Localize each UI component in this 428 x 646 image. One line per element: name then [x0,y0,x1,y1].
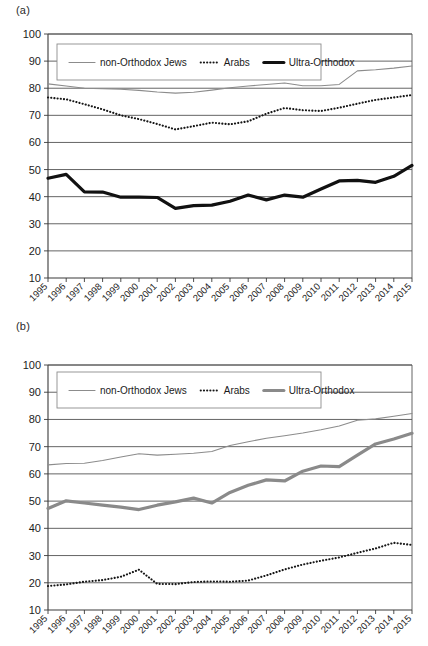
x-axis-tick-label: 2004 [190,613,213,636]
x-axis-tick-label: 2002 [154,613,177,636]
x-axis-tick-label: 1997 [63,281,86,304]
x-axis-tick-label: 1998 [81,613,104,636]
y-axis-tick-label: 40 [29,522,41,534]
x-axis-tick-label: 2008 [263,613,286,636]
chart-panel-b: (b) 102030405060708090100199519961997199… [0,320,428,646]
y-axis-tick-label: 70 [29,109,41,121]
x-axis-tick-label: 1996 [45,613,68,636]
x-axis-tick-label: 1999 [99,613,122,636]
x-axis-tick-label: 2015 [391,281,414,304]
legend-label-arabs: Arabs [224,57,250,68]
y-axis-tick-label: 80 [29,82,41,94]
x-axis-tick-label: 2011 [318,613,340,635]
x-axis-tick-label: 2013 [354,613,377,636]
figure-container: (a) 102030405060708090100199519961997199… [0,0,428,646]
y-axis-tick-label: 40 [29,191,41,203]
panel-b-plot-area: 1020304050607080901001995199619971998199… [0,320,428,646]
y-axis-tick-label: 90 [29,55,41,67]
x-axis-tick-label: 2004 [190,281,213,304]
x-axis-tick-label: 2013 [354,281,377,304]
x-axis-tick-label: 2000 [118,613,141,636]
x-axis-tick-label: 2007 [245,281,268,304]
x-axis-tick-label: 2010 [300,613,323,636]
x-axis-tick-label: 1998 [81,281,104,304]
series-line-ultra-orthodox [48,433,412,509]
x-axis-tick-label: 1996 [45,281,68,304]
x-axis-tick-label: 2007 [245,613,268,636]
x-axis-tick-label: 2012 [336,281,359,304]
x-axis-tick-label: 2000 [118,281,141,304]
chart-panel-a: (a) 102030405060708090100199519961997199… [0,0,428,320]
y-axis-tick-label: 50 [29,164,41,176]
x-axis-tick-label: 2006 [227,613,250,636]
y-axis-tick-label: 80 [29,413,41,425]
y-axis-tick-label: 70 [29,441,41,453]
y-axis-tick-label: 20 [29,245,41,257]
x-axis-tick-label: 2001 [136,613,159,636]
y-axis-tick-label: 90 [29,386,41,398]
x-axis-tick-label: 2009 [281,281,304,304]
x-axis-tick-label: 2001 [136,281,159,304]
series-line-arabs [48,543,412,586]
y-axis-tick-label: 30 [29,550,41,562]
x-axis-tick-label: 2010 [300,281,323,304]
x-axis-tick-label: 2006 [227,281,250,304]
x-axis-tick-label: 1995 [27,281,50,304]
x-axis-tick-label: 1997 [63,613,86,636]
x-axis-tick-label: 2005 [209,281,232,304]
series-line-arabs [48,95,412,129]
series-line-non-orthodox-jews [48,413,412,464]
x-axis-tick-label: 2012 [336,613,359,636]
x-axis-tick-label: 2009 [281,613,304,636]
y-axis-tick-label: 60 [29,136,41,148]
legend-label-arabs: Arabs [224,385,250,396]
y-axis-tick-label: 60 [29,468,41,480]
x-axis-tick-label: 2014 [372,613,395,636]
legend-label-non-orthodox-jews: non-Orthodox Jews [100,57,187,68]
legend-label-ultra-orthodox: Ultra-Orthodox [289,57,355,68]
x-axis-tick-label: 2011 [318,281,340,303]
panel-a-svg: 1020304050607080901001995199619971998199… [0,0,428,320]
series-line-ultra-orthodox [48,165,412,208]
y-axis-tick-label: 30 [29,218,41,230]
legend-label-non-orthodox-jews: non-Orthodox Jews [100,385,187,396]
y-axis-tick-label: 100 [23,28,41,40]
y-axis-tick-label: 50 [29,495,41,507]
panel-a-plot-area: 1020304050607080901001995199619971998199… [0,0,428,320]
x-axis-tick-label: 2003 [172,281,195,304]
y-axis-tick-label: 20 [29,577,41,589]
y-axis-tick-label: 100 [23,359,41,371]
x-axis-tick-label: 2003 [172,613,195,636]
panel-b-svg: 1020304050607080901001995199619971998199… [0,320,428,646]
x-axis-tick-label: 2014 [372,281,395,304]
x-axis-tick-label: 1995 [27,613,50,636]
x-axis-tick-label: 2002 [154,281,177,304]
x-axis-tick-label: 1999 [99,281,122,304]
x-axis-tick-label: 2015 [391,613,414,636]
x-axis-tick-label: 2008 [263,281,286,304]
x-axis-tick-label: 2005 [209,613,232,636]
legend-label-ultra-orthodox: Ultra-Orthodox [289,385,355,396]
